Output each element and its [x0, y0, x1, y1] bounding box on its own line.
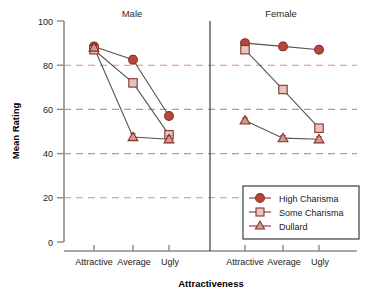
- x-tick-label-male-ugly: Ugly: [161, 257, 180, 267]
- y-tick-label-40: 40: [43, 149, 53, 159]
- chart-background: [0, 0, 372, 298]
- data-point-some-charisma: [241, 46, 249, 54]
- chart-figure: Male Female 100 80 60 40 20 0 Mean Ratin…: [0, 0, 372, 298]
- legend-item-some-charisma[interactable]: Some Charisma: [249, 208, 344, 218]
- square-icon: [256, 208, 264, 216]
- circle-icon: [256, 194, 265, 203]
- x-tick-label-female-average: Average: [267, 257, 300, 267]
- y-axis-label: Mean Rating: [10, 103, 21, 160]
- x-tick-label-female-attractive: Attractive: [226, 257, 264, 267]
- data-point-some-charisma: [279, 85, 287, 93]
- x-tick-label-male-attractive: Attractive: [75, 257, 113, 267]
- data-point-some-charisma: [129, 79, 137, 87]
- data-point-high-charisma: [129, 55, 138, 64]
- x-tick-label-female-ugly: Ugly: [311, 257, 330, 267]
- x-tick-label-male-average: Average: [117, 257, 150, 267]
- legend-label-some: Some Charisma: [279, 208, 344, 218]
- y-tick-label-100: 100: [38, 17, 53, 27]
- panel-title-female: Female: [265, 8, 297, 19]
- data-point-high-charisma: [165, 112, 174, 121]
- data-point-some-charisma: [315, 124, 323, 132]
- legend-item-high-charisma[interactable]: High Charisma: [249, 194, 339, 204]
- y-tick-label-0: 0: [48, 238, 53, 248]
- data-point-high-charisma: [279, 42, 288, 51]
- y-tick-label-60: 60: [43, 105, 53, 115]
- panel-title-male: Male: [122, 8, 143, 19]
- y-tick-label-80: 80: [43, 61, 53, 71]
- legend-label-high: High Charisma: [279, 194, 339, 204]
- y-tick-label-20: 20: [43, 193, 53, 203]
- legend[interactable]: High Charisma Some Charisma Dullard: [243, 186, 359, 239]
- data-point-high-charisma: [315, 45, 324, 54]
- x-axis-label: Attractiveness: [178, 278, 243, 289]
- legend-label-dullard: Dullard: [279, 222, 308, 232]
